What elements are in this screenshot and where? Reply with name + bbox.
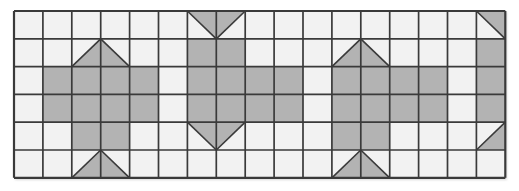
cell-base: [303, 11, 332, 39]
cell-base: [43, 122, 72, 150]
cell-filled: [390, 94, 419, 122]
cell-filled: [332, 122, 361, 150]
cell-base: [448, 94, 477, 122]
cell-base: [159, 67, 188, 95]
cell-base: [448, 39, 477, 67]
cell-base: [245, 11, 274, 39]
cell-base: [245, 39, 274, 67]
cell-base: [448, 11, 477, 39]
cell-filled: [274, 67, 303, 95]
cell-base: [159, 39, 188, 67]
cell-filled: [476, 39, 505, 67]
cell-base: [274, 150, 303, 178]
cell-base: [303, 94, 332, 122]
cell-filled: [476, 67, 505, 95]
pattern-canvas: Quilt block grid pattern: [0, 0, 519, 191]
cell-base: [419, 122, 448, 150]
cell-base: [14, 67, 43, 95]
quilt-grid: [0, 0, 519, 191]
cell-base: [419, 11, 448, 39]
cell-base: [303, 122, 332, 150]
cell-filled: [419, 94, 448, 122]
cell-filled: [245, 94, 274, 122]
cell-filled: [332, 67, 361, 95]
cell-base: [419, 150, 448, 178]
cell-base: [14, 11, 43, 39]
cell-filled: [72, 67, 101, 95]
cell-filled: [216, 39, 245, 67]
cell-filled: [476, 94, 505, 122]
cell-filled: [43, 94, 72, 122]
cell-base: [245, 122, 274, 150]
cell-base: [14, 150, 43, 178]
cell-base: [130, 11, 159, 39]
cell-base: [390, 39, 419, 67]
cell-base: [130, 150, 159, 178]
cell-filled: [390, 67, 419, 95]
cell-base: [303, 39, 332, 67]
cell-base: [159, 94, 188, 122]
cell-base: [332, 11, 361, 39]
cell-filled: [130, 94, 159, 122]
cell-filled: [361, 122, 390, 150]
cell-base: [130, 122, 159, 150]
cell-base: [159, 11, 188, 39]
cell-filled: [274, 94, 303, 122]
cell-filled: [187, 94, 216, 122]
cell-base: [14, 94, 43, 122]
cell-filled: [101, 94, 130, 122]
cell-filled: [43, 67, 72, 95]
cell-base: [43, 11, 72, 39]
cell-base: [187, 150, 216, 178]
cell-base: [390, 150, 419, 178]
cell-base: [101, 11, 130, 39]
cell-base: [419, 39, 448, 67]
cell-base: [216, 150, 245, 178]
cell-base: [448, 122, 477, 150]
cell-filled: [101, 122, 130, 150]
cell-filled: [361, 94, 390, 122]
cell-filled: [332, 94, 361, 122]
cell-base: [43, 39, 72, 67]
cell-base: [274, 11, 303, 39]
cell-base: [476, 150, 505, 178]
cell-base: [448, 150, 477, 178]
cell-base: [14, 39, 43, 67]
cell-filled: [216, 67, 245, 95]
cell-filled: [419, 67, 448, 95]
cell-filled: [216, 94, 245, 122]
cell-base: [303, 150, 332, 178]
cell-base: [274, 39, 303, 67]
cell-base: [245, 150, 274, 178]
cell-base: [130, 39, 159, 67]
cell-filled: [72, 122, 101, 150]
cell-filled: [187, 39, 216, 67]
cell-base: [159, 122, 188, 150]
cell-filled: [101, 67, 130, 95]
cell-filled: [130, 67, 159, 95]
cell-base: [361, 11, 390, 39]
cell-base: [303, 67, 332, 95]
cell-filled: [245, 67, 274, 95]
cell-filled: [187, 67, 216, 95]
cell-base: [390, 11, 419, 39]
cell-base: [448, 67, 477, 95]
cell-filled: [72, 94, 101, 122]
cell-base: [43, 150, 72, 178]
cell-base: [390, 122, 419, 150]
cell-filled: [361, 67, 390, 95]
cell-base: [274, 122, 303, 150]
cell-base: [72, 11, 101, 39]
cell-base: [14, 122, 43, 150]
cell-base: [159, 150, 188, 178]
